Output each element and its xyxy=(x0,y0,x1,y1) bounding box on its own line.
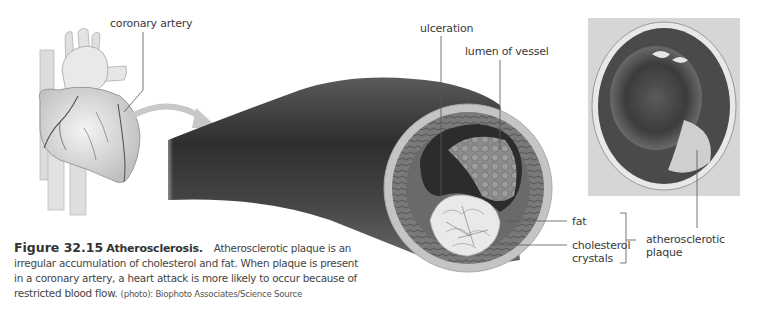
caption-line-4: restricted blood flow. xyxy=(14,287,118,299)
label-lumen-of-vessel: lumen of vessel xyxy=(465,45,549,58)
caption-line-3: in a coronary artery, a heart attack is … xyxy=(14,272,357,284)
label-ulceration: ulceration xyxy=(420,22,473,35)
label-plaque-line2: plaque xyxy=(646,246,682,259)
label-plaque-line1: atherosclerotic xyxy=(646,233,725,246)
label-fat: fat xyxy=(572,215,586,228)
label-cholesterol-line2: crystals xyxy=(572,252,613,265)
label-coronary-artery: coronary artery xyxy=(110,17,192,30)
heart-illustration xyxy=(39,28,140,215)
figure-number: Figure 32.15 xyxy=(14,240,103,255)
photo-credit: (photo): Biophoto Associates/Science Sou… xyxy=(121,289,303,299)
caption-line-1: Atherosclerotic plaque is an xyxy=(214,242,351,254)
micrograph-photo xyxy=(588,18,740,196)
figure-caption: Figure 32.15 Atherosclerosis. Atheroscle… xyxy=(14,240,384,302)
label-cholesterol-line1: cholesterol xyxy=(572,239,630,252)
curved-arrow-icon xyxy=(132,106,202,118)
caption-line-2: irregular accumulation of cholesterol an… xyxy=(14,257,358,269)
figure-title: Atherosclerosis. xyxy=(106,242,202,255)
